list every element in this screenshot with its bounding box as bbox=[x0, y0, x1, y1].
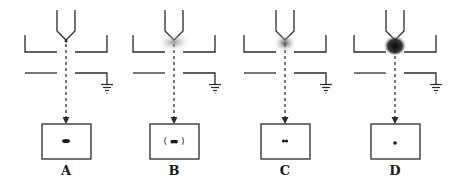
detector-spot bbox=[282, 139, 288, 142]
panel-d bbox=[354, 10, 442, 159]
panel-a bbox=[25, 10, 113, 159]
spray-cloud bbox=[384, 35, 406, 55]
panel-b: ( ▬ ) bbox=[133, 10, 221, 159]
detector-spot bbox=[393, 141, 397, 145]
tip-droplet bbox=[65, 40, 68, 43]
spray-cloud bbox=[274, 35, 296, 53]
detector-spot: ( ▬ ) bbox=[163, 136, 184, 146]
panel-c bbox=[244, 10, 332, 159]
panel-label-a: A bbox=[51, 163, 81, 178]
spray-cloud bbox=[158, 35, 190, 53]
diagram-canvas: ( ▬ ) bbox=[0, 0, 465, 189]
panel-label-c: C bbox=[270, 163, 300, 178]
panel-label-d: D bbox=[380, 163, 410, 178]
panel-label-b: B bbox=[159, 163, 189, 178]
detector-spot bbox=[62, 139, 70, 143]
